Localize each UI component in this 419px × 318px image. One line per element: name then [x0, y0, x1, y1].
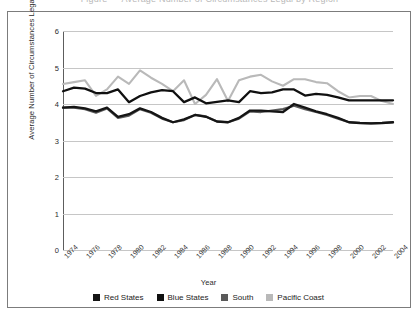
legend-label: South: [232, 293, 253, 302]
y-axis-label: Average Number of Circumstances Legal: [27, 0, 36, 154]
axis-area: 0123456: [63, 31, 393, 250]
legend-label: Blue States: [168, 293, 209, 302]
legend-swatch-icon: [221, 294, 228, 301]
legend-item-red-states: Red States: [93, 293, 144, 302]
legend-swatch-icon: [266, 294, 273, 301]
x-tick-2004: 2004: [392, 243, 410, 261]
legend-item-blue-states: Blue States: [157, 293, 209, 302]
legend-label: Red States: [104, 293, 144, 302]
caption-text: Figure — Average Number of Circumstances…: [0, 0, 419, 4]
chart-screenshot: Figure — Average Number of Circumstances…: [0, 0, 419, 318]
clipped-caption: Figure — Average Number of Circumstances…: [0, 0, 419, 11]
legend-item-pacific-coast: Pacific Coast: [266, 293, 324, 302]
y-tick-3: 3: [47, 141, 59, 142]
chart-frame: Average Number of Circumstances Legal 01…: [7, 11, 411, 308]
y-tick-6: 6: [47, 31, 59, 32]
x-axis-label: Year: [8, 278, 409, 287]
y-tick-5: 5: [47, 68, 59, 69]
y-tick-1: 1: [47, 214, 59, 215]
series-lines: [63, 31, 393, 250]
legend-item-south: South: [221, 293, 253, 302]
series-line-red-states: [63, 104, 393, 123]
legend-label: Pacific Coast: [277, 293, 324, 302]
legend-swatch-icon: [93, 294, 100, 301]
y-tick-0: 0: [47, 250, 59, 251]
plot-area: Average Number of Circumstances Legal 01…: [8, 12, 409, 306]
y-tick-2: 2: [47, 177, 59, 178]
y-tick-4: 4: [47, 104, 59, 105]
legend-swatch-icon: [157, 294, 164, 301]
chart-legend: Red StatesBlue StatesSouthPacific Coast: [8, 293, 409, 302]
